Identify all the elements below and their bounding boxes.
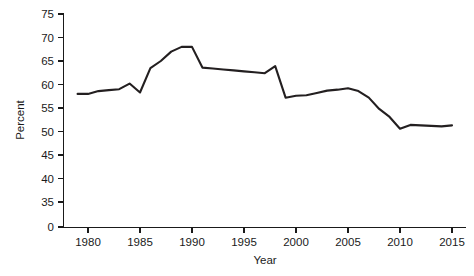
- y-tick-label-55: 55: [41, 102, 54, 114]
- x-tick-label-2015: 2015: [439, 236, 465, 248]
- chart-plot-area: 0354045505560657075 19801985199019952000…: [0, 0, 474, 276]
- y-tick-label-75: 75: [41, 8, 54, 20]
- y-axis-tick-labels: 0354045505560657075: [41, 8, 54, 233]
- y-axis-title: Percent: [14, 99, 26, 139]
- y-tick-label-70: 70: [41, 32, 54, 44]
- x-axis-title: Year: [253, 254, 276, 266]
- y-axis-ticks: [58, 14, 64, 227]
- y-tick-label-0: 0: [48, 221, 54, 233]
- x-axis-ticks: [88, 228, 452, 234]
- x-axis-tick-labels: 19801985199019952000200520102015: [75, 236, 465, 248]
- y-tick-label-45: 45: [41, 149, 54, 161]
- y-tick-label-35: 35: [41, 196, 54, 208]
- x-tick-label-2000: 2000: [283, 236, 309, 248]
- y-tick-label-60: 60: [41, 79, 54, 91]
- x-tick-label-1980: 1980: [75, 236, 101, 248]
- x-tick-label-1985: 1985: [127, 236, 153, 248]
- y-tick-label-50: 50: [41, 126, 54, 138]
- y-tick-label-40: 40: [41, 173, 54, 185]
- x-tick-label-2010: 2010: [387, 236, 413, 248]
- y-tick-label-65: 65: [41, 55, 54, 67]
- x-tick-label-2005: 2005: [335, 236, 361, 248]
- x-tick-label-1995: 1995: [231, 236, 257, 248]
- data-series-line: [78, 47, 452, 129]
- line-chart-figure: 0354045505560657075 19801985199019952000…: [0, 0, 474, 276]
- x-tick-label-1990: 1990: [179, 236, 205, 248]
